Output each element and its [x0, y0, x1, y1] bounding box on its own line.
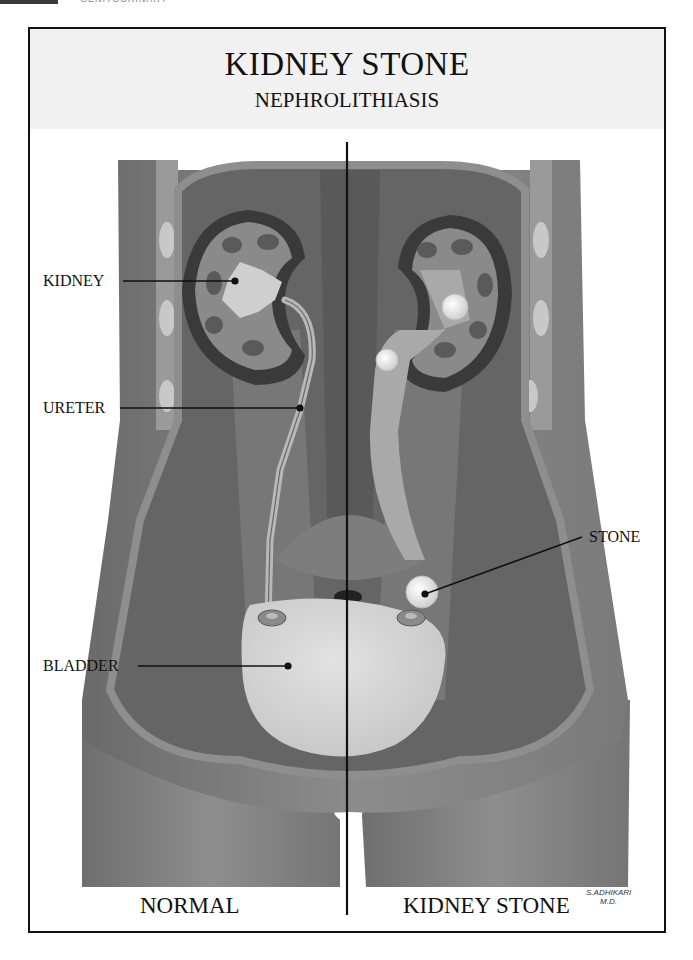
- label-stone: STONE: [589, 528, 640, 546]
- signature-name: S.ADHIKARI: [586, 888, 631, 897]
- kidney-stone-distal-ureter: [406, 576, 438, 608]
- signature-credential: M.D.: [586, 897, 631, 906]
- kidney-stone-upper-ureter: [376, 349, 398, 371]
- caption-normal: NORMAL: [140, 893, 240, 919]
- kidney-stone-renal-pelvis: [442, 294, 468, 320]
- label-ureter: URETER: [43, 399, 105, 417]
- label-kidney: KIDNEY: [43, 272, 104, 290]
- artist-signature: S.ADHIKARI M.D.: [586, 888, 631, 906]
- caption-kidney-stone: KIDNEY STONE: [403, 893, 570, 919]
- label-bladder: BLADDER: [43, 657, 119, 675]
- anatomy-illustration: [0, 0, 693, 960]
